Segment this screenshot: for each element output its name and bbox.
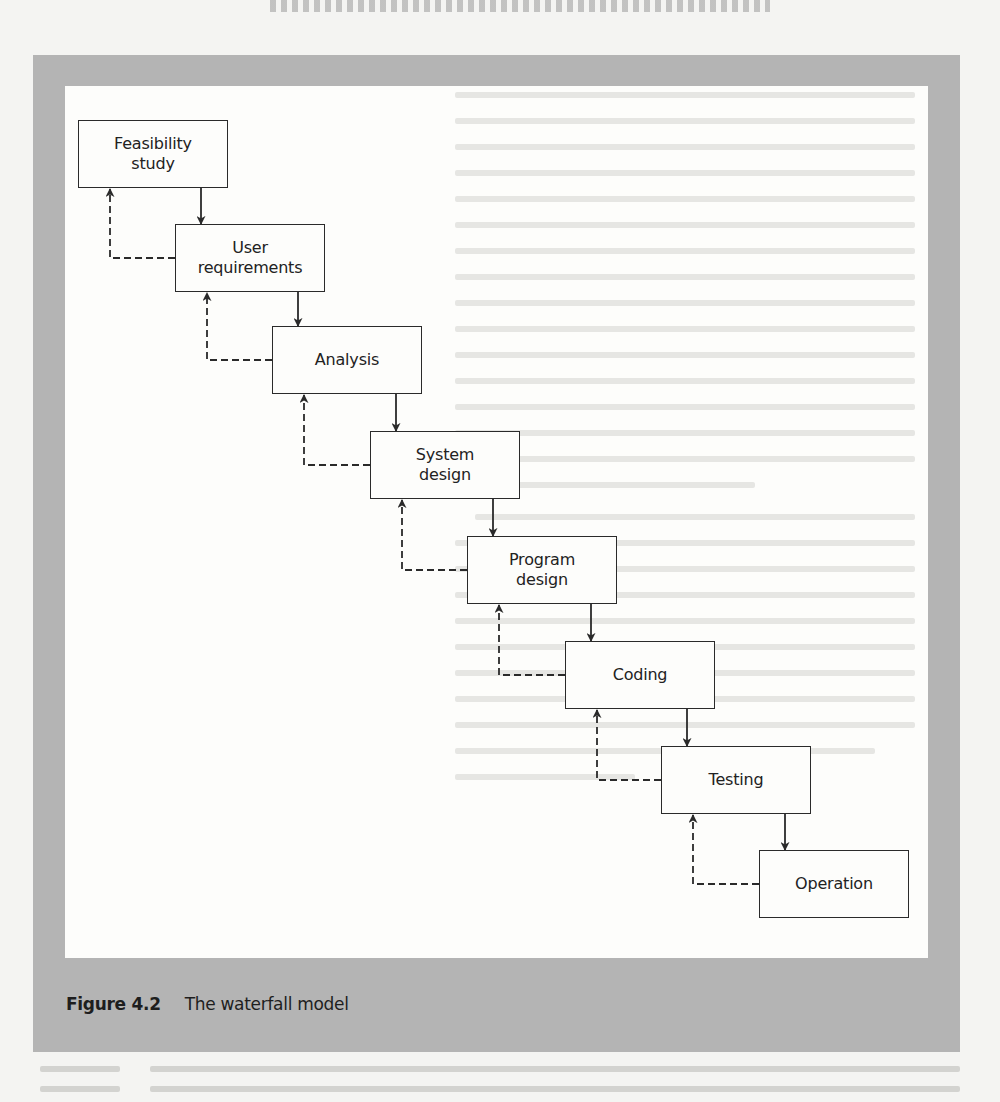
page-bleed-bottom [0,1062,1000,1102]
stage-user-requirements: User requirements [175,224,325,292]
stage-testing: Testing [661,746,811,814]
stage-label: Analysis [315,350,379,370]
feedback-arrow [693,815,759,884]
stage-label: Feasibility study [114,134,192,174]
feedback-arrow [207,293,272,360]
stage-label: System design [416,445,474,485]
feedback-arrow [499,605,565,675]
feedback-arrow [304,395,370,465]
stage-label: Operation [795,874,873,894]
stage-label: Program design [509,550,575,590]
stage-analysis: Analysis [272,326,422,394]
feedback-arrow [110,189,175,258]
stage-operation: Operation [759,850,909,918]
stage-system-design: System design [370,431,520,499]
feedback-arrow [402,500,467,570]
stage-feasibility-study: Feasibility study [78,120,228,188]
feedback-arrow [597,710,661,780]
stage-label: User requirements [198,238,303,278]
stage-coding: Coding [565,641,715,709]
stage-program-design: Program design [467,536,617,604]
stage-label: Coding [613,665,668,685]
stage-label: Testing [709,770,764,790]
